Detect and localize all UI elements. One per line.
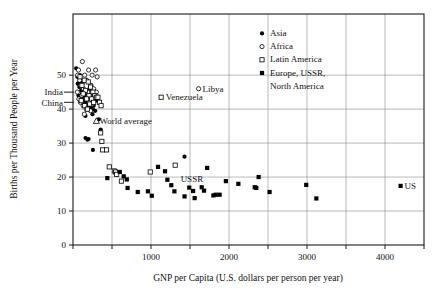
data-point [218,193,222,197]
data-point [125,177,129,181]
data-point [193,196,197,200]
data-point [96,95,100,99]
data-point [267,190,271,194]
y-tick-label: 20 [57,172,67,182]
legend-marker-europe-ussr- [260,71,264,75]
data-point [182,194,186,198]
data-point [159,95,163,99]
data-point [86,80,90,84]
data-point [182,155,186,159]
data-point [224,179,228,183]
annotation-india: India [45,87,64,97]
data-point [196,87,200,91]
data-point [100,139,104,143]
data-point [169,183,173,187]
data-point [173,163,177,167]
data-point [148,170,152,174]
x-tick-label: 2000 [220,252,239,262]
x-axis-label: GNP per Capita (U.S. dollars per person … [153,273,343,284]
data-point [314,196,318,200]
data-point [126,186,130,190]
data-point [118,170,122,174]
y-tick-label: 10 [57,206,67,216]
legend-marker-asia [260,31,264,35]
data-point [75,90,79,94]
data-point [187,185,191,189]
annotation-world-average: World average [100,116,153,126]
data-point [79,99,83,103]
data-point [119,179,123,183]
data-point [163,169,167,173]
data-point [78,75,82,79]
y-tick-label: 50 [57,70,67,80]
data-point [80,59,84,63]
data-point [82,112,86,116]
legend-label-north-america: North America [270,81,324,91]
data-point [87,68,91,72]
data-point [81,92,85,96]
data-point [87,137,91,141]
y-tick-label: 0 [62,240,67,250]
data-point [205,166,209,170]
data-point [236,182,240,186]
data-point [191,189,195,193]
scatter-plot-svg: 1000200030004000 01020304050 IndiaChinaW… [0,0,439,291]
annotation-china: China [42,98,64,108]
x-tick-label: 1000 [142,252,161,262]
data-point [94,68,98,72]
annotation-libya: Libya [202,84,223,94]
data-point [99,104,103,108]
data-point [150,194,154,198]
legend-label-africa: Africa [270,41,293,51]
data-point [88,85,92,89]
data-point [257,175,261,179]
data-point [105,176,109,180]
data-point [95,75,99,79]
x-tick-label: 3000 [298,252,317,262]
data-point [83,73,87,77]
legend-marker-latin-america [260,58,264,62]
data-point [90,73,94,77]
data-point [85,107,89,111]
data-point [172,189,176,193]
data-point [214,193,218,197]
data-point [136,190,140,194]
data-point [92,100,96,104]
legend-marker-africa [260,45,264,49]
data-point [91,148,95,152]
data-point [107,165,111,169]
legend-label-latin-america: Latin America [270,54,322,64]
data-point [76,68,80,72]
data-point [165,178,169,182]
data-point [99,131,103,135]
chart-figure: 1000200030004000 01020304050 IndiaChinaW… [0,0,439,291]
data-point [254,186,258,190]
y-tick-label: 30 [57,138,67,148]
data-point [304,183,308,187]
data-point [146,189,150,193]
legend-label-asia: Asia [270,28,287,38]
data-point [202,189,206,193]
y-axis-label: Births per Thousand People per Year [9,58,19,199]
data-point [156,165,160,169]
annotation-ussr: USSR [181,174,204,184]
annotation-venezuela: Venezuela [166,92,203,102]
data-point [85,97,89,101]
data-point [80,83,84,87]
data-point [104,148,108,152]
annotation-us: US [405,181,417,191]
data-point [399,184,403,188]
legend-label-europe-ussr: Europe, USSR, [270,68,325,78]
x-tick-label: 4000 [376,252,395,262]
